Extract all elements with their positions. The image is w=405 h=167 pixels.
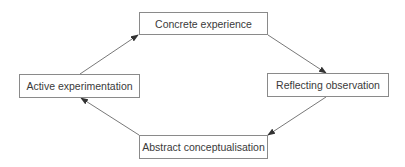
node-label: Active experimentation — [26, 80, 132, 92]
node-active-experimentation: Active experimentation — [19, 74, 140, 98]
node-label: Reflecting observation — [276, 79, 380, 91]
node-abstract-conceptualisation: Abstract conceptualisation — [139, 135, 268, 159]
arrow-reflecting-to-abstract — [268, 97, 326, 135]
arrow-abstract-to-active — [81, 98, 139, 135]
node-label: Abstract conceptualisation — [142, 141, 265, 153]
arrow-concrete-to-reflecting — [268, 35, 326, 73]
node-label: Concrete experience — [155, 18, 252, 30]
arrow-active-to-concrete — [80, 35, 138, 74]
node-concrete-experience: Concrete experience — [139, 12, 268, 35]
node-reflecting-observation: Reflecting observation — [267, 73, 389, 97]
